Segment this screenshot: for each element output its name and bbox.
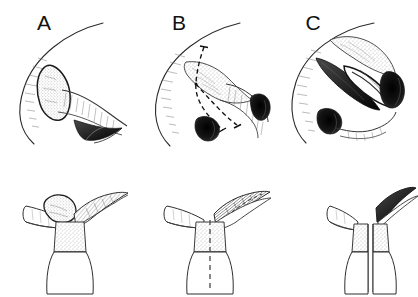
section-a-trunk	[54, 222, 86, 252]
section-c-trunk-left-half	[352, 224, 368, 252]
section-c-trunk-right-half	[373, 224, 389, 252]
incision-junction-point	[195, 83, 198, 86]
panel-c-label: C	[305, 11, 320, 34]
panel-a-label: A	[37, 11, 51, 34]
figure-root: A	[0, 0, 418, 297]
surgical-illustration-canvas: A	[0, 0, 418, 297]
panel-b-label: B	[172, 11, 186, 34]
section-a-base	[47, 252, 93, 294]
